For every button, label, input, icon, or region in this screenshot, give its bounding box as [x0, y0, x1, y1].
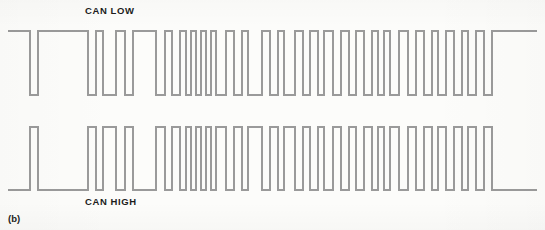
waveform-canvas — [0, 0, 545, 230]
can-low-path — [8, 31, 537, 95]
figure-caption: (b) — [8, 214, 20, 224]
can-high-path — [8, 127, 537, 190]
can-bus-waveform-figure: CAN LOW CAN HIGH (b) — [0, 0, 545, 230]
can-high-trace — [8, 127, 537, 190]
can-low-trace — [8, 31, 537, 95]
can-low-label: CAN LOW — [85, 6, 135, 16]
can-high-label: CAN HIGH — [85, 197, 137, 207]
